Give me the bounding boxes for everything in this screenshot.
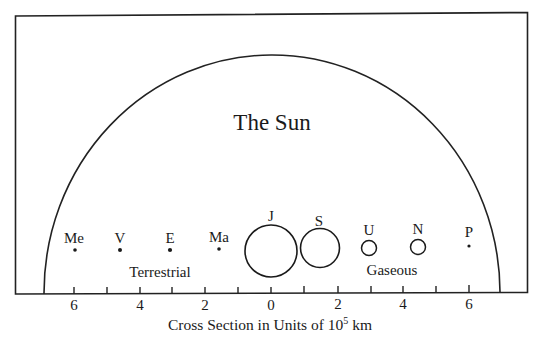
- planet-label-uranus: U: [364, 222, 375, 238]
- tick-label: 0: [267, 297, 275, 313]
- tick-label: 2: [334, 296, 342, 312]
- planet-label-earth: E: [165, 230, 174, 246]
- planet-saturn-circle: [301, 229, 340, 268]
- sun-title: The Sun: [233, 110, 311, 135]
- planet-mars-dot: [217, 247, 221, 251]
- axis-label: Cross Section in Units of 105 km: [168, 315, 372, 333]
- planet-label-mars: Ma: [209, 229, 229, 245]
- planet-label-neptune: N: [413, 221, 424, 237]
- group-label-gaseous: Gaseous: [367, 262, 418, 278]
- axis-tick-labels: 6 4 2 0 2 4 6: [70, 296, 473, 313]
- planet-label-saturn: S: [315, 213, 323, 229]
- planet-label-venus: V: [115, 230, 126, 246]
- planet-venus-dot: [118, 248, 122, 252]
- tick-label: 2: [201, 297, 209, 313]
- group-label-terrestrial: Terrestrial: [129, 264, 190, 280]
- solar-size-diagram: 6 4 2 0 2 4 6 Cross Section in Units of …: [0, 0, 540, 337]
- tick-label: 6: [465, 296, 473, 312]
- planet-label-mercury: Me: [64, 230, 84, 246]
- planet-label-jupiter: J: [268, 208, 274, 224]
- planet-neptune-circle: [411, 240, 426, 255]
- planet-earth-dot: [168, 248, 172, 252]
- planet-pluto-dot: [467, 244, 470, 247]
- tick-label: 6: [70, 297, 78, 313]
- planet-mercury-dot: [73, 248, 77, 252]
- planet-jupiter-circle: [245, 225, 297, 277]
- planet-label-pluto: P: [465, 224, 473, 240]
- sun-outline: [44, 55, 500, 294]
- tick-label: 4: [399, 296, 407, 312]
- tick-label: 4: [136, 297, 144, 313]
- planet-uranus-circle: [362, 241, 377, 256]
